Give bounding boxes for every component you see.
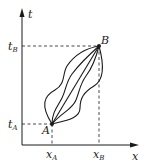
xB-tick-label: xB — [93, 148, 104, 162]
worldline-straight — [52, 46, 99, 124]
guide-lines — [22, 46, 99, 145]
worldline-outer-left — [45, 46, 99, 124]
x-axis-label: x — [132, 150, 139, 163]
tA-tick-label: tA — [8, 118, 17, 132]
xA-tick-label: xA — [46, 148, 57, 162]
point-B-label: B — [100, 34, 109, 47]
point-A-marker — [50, 122, 54, 126]
tA-sub: A — [11, 124, 17, 132]
point-A-label: A — [41, 124, 50, 137]
t-axis-label: t — [28, 8, 33, 21]
tB-tick-label: tB — [8, 40, 18, 54]
t-axis-arrow-icon — [20, 8, 25, 17]
spacetime-diagram: t x A B tB — [0, 0, 149, 166]
tB-sub: B — [11, 46, 17, 54]
worldlines — [45, 46, 103, 124]
xB-sub: B — [98, 154, 104, 162]
x-axis-arrow-icon — [130, 143, 139, 148]
xA-sub: A — [51, 154, 57, 162]
